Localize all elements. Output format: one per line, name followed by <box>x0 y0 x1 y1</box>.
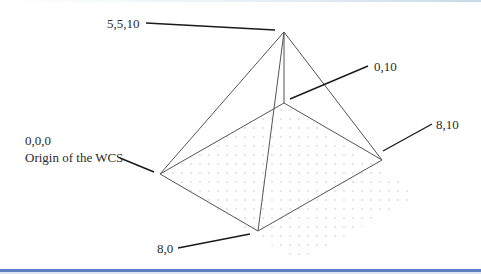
leader-back <box>290 66 368 99</box>
label-apex: 5,5,10 <box>107 16 140 31</box>
pyramid-diagram <box>0 0 481 274</box>
label-front-corner: 8,0 <box>157 241 173 256</box>
label-origin-coords: 0,0,0 <box>25 133 51 148</box>
label-back-corner: 0,10 <box>374 59 397 74</box>
leader-front <box>178 234 250 248</box>
leader-apex <box>146 23 275 30</box>
diagram-canvas: 5,5,10 0,10 8,10 0,0,0 Origin of the WCS… <box>0 0 481 274</box>
leader-origin <box>120 158 154 172</box>
label-origin-caption: Origin of the WCS <box>25 150 123 165</box>
grid-plane <box>160 103 420 262</box>
leader-right <box>383 124 432 151</box>
label-right-corner: 8,10 <box>436 117 459 132</box>
